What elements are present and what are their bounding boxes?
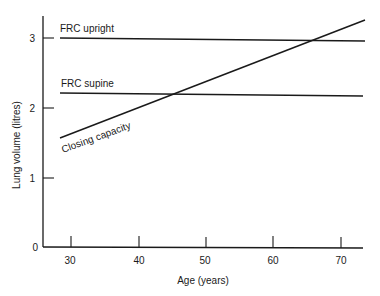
y-tick-label: 2 [29, 103, 35, 114]
x-axis-title: Age (years) [177, 275, 229, 286]
y-tick-label: 1 [29, 173, 35, 184]
x-tick-label: 70 [335, 255, 347, 266]
x-ticks [71, 236, 341, 248]
y-ticks [43, 38, 54, 178]
label-frc-upright: FRC upright [60, 23, 114, 34]
x-tick-label: 60 [267, 255, 279, 266]
chart: 3 2 1 0 30 40 50 60 70 Age (years) Lung … [0, 0, 380, 296]
label-frc-supine: FRC supine [61, 78, 114, 89]
y-axis-title: Lung volume (litres) [11, 101, 22, 189]
label-closing-capacity: Closing capacity [60, 120, 132, 155]
x-tick-label: 30 [64, 255, 76, 266]
x-tick-label: 50 [199, 255, 211, 266]
series-frc-supine [60, 93, 363, 96]
y-tick-label: 0 [32, 242, 38, 253]
y-tick-label: 3 [29, 33, 35, 44]
x-tick-label: 40 [133, 255, 145, 266]
x-axis [43, 247, 363, 248]
